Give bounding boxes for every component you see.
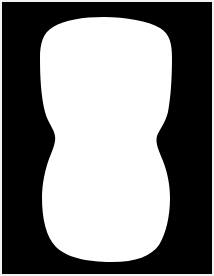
foreground-blob-shape [40, 17, 172, 262]
segmentation-mask-viewer [0, 0, 214, 276]
mask-canvas [0, 0, 214, 276]
